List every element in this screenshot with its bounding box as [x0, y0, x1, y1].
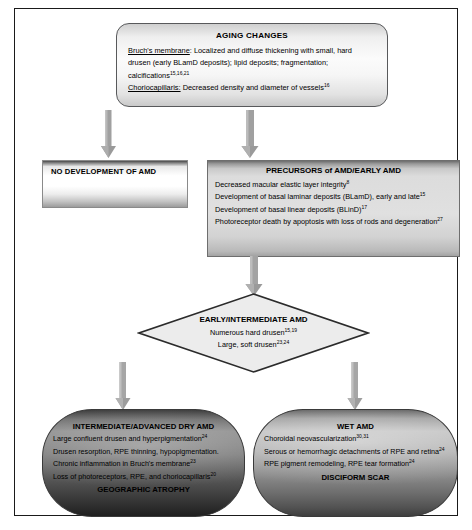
precursors-item: Photoreceptor death by apoptosis with lo…	[215, 216, 452, 229]
dry-amd-item: Loss of photoreceptors, RPE, and chorioc…	[53, 471, 234, 483]
wet-amd-title: WET AMD	[264, 421, 447, 433]
precursors-item-text: Decreased macular elastic layer integrit…	[215, 180, 346, 189]
aging-changes-box: AGING CHANGES Bruch's membrane: Localize…	[116, 23, 388, 107]
arrow-aging-to-nodevelopment	[98, 110, 120, 160]
wet-amd-item-ref: 24	[439, 445, 445, 451]
dry-amd-title: INTERMEDIATE/ADVANCED DRY AMD	[53, 421, 234, 433]
bruchs-membrane-label: Bruch's membrane	[128, 46, 190, 55]
precursors-item-ref: 15	[420, 191, 426, 197]
choriocapillaris-label: Choriocapillaris:	[128, 83, 181, 92]
precursors-title: PRECURSORS of AMD/EARLY AMD	[215, 165, 452, 178]
early-intermediate-amd-text: EARLY/INTERMEDIATE AMD Numerous hard dru…	[137, 314, 370, 351]
early-intermediate-amd-item: Large, soft drusen23,24	[137, 339, 370, 351]
page-frame: AGING CHANGES Bruch's membrane: Localize…	[14, 8, 458, 516]
wet-amd-item-ref: 24	[409, 458, 415, 464]
dry-amd-item: Large confluent drusen and hyperpigmenta…	[53, 433, 234, 445]
precursors-item-ref: 27	[437, 216, 443, 222]
wet-amd-cylinder: WET AMD Choroidal neovascularization30,3…	[253, 409, 458, 517]
wet-amd-item-text: Serous or hemorrhagic detachments of RPE…	[264, 447, 439, 456]
aging-changes-line-1: Bruch's membrane: Localized and diffuse …	[128, 45, 376, 83]
dry-amd-item-ref: 20	[210, 470, 216, 476]
early-intermediate-amd-title: EARLY/INTERMEDIATE AMD	[137, 314, 370, 326]
choriocapillaris-text: Decreased density and diameter of vessel…	[181, 83, 324, 92]
wet-amd-item: Serous or hemorrhagic detachments of RPE…	[264, 446, 447, 458]
early-intermediate-amd-item-text: Large, soft drusen	[218, 340, 277, 349]
precursors-item: Decreased macular elastic layer integrit…	[215, 179, 452, 192]
wet-amd-item-text: RPE pigment remodeling, RPE tear formati…	[264, 459, 409, 468]
no-development-box: NO DEVELOPMENT OF AMD	[42, 160, 188, 208]
precursors-item-text: Photoreceptor death by apoptosis with lo…	[215, 217, 437, 226]
dry-amd-item-ref: 24	[202, 433, 208, 439]
diagram-page: AGING CHANGES Bruch's membrane: Localize…	[0, 0, 472, 530]
choriocapillaris-ref: 16	[324, 82, 330, 88]
dry-amd-item-text: Drusen resorption, RPE thinning, hypopig…	[53, 447, 219, 456]
dry-amd-item-text: Large confluent drusen and hyperpigmenta…	[53, 434, 202, 443]
aging-changes-line-2: Choriocapillaris: Decreased density and …	[128, 82, 376, 95]
precursors-item: Development of basal laminar deposits (B…	[215, 191, 452, 204]
precursors-item: Development of basal linear deposits (BL…	[215, 204, 452, 217]
arrow-to-wet-amd	[345, 362, 365, 412]
dry-amd-item: Drusen resorption, RPE thinning, hypopig…	[53, 446, 234, 458]
wet-amd-item-text: Choroidal neovascularization	[264, 434, 356, 443]
early-intermediate-amd-item-text: Numerous hard drusen	[210, 328, 285, 337]
bruchs-membrane-ref: 15,16,21	[170, 69, 189, 75]
early-intermediate-amd-item-ref: 23,24	[277, 339, 290, 345]
precursors-item-ref: 8	[346, 178, 349, 184]
early-intermediate-amd-item-ref: 15,19	[285, 327, 298, 333]
dry-amd-outcome: GEOGRAPHIC ATROPHY	[53, 484, 234, 496]
precursors-item-text: Development of basal linear deposits (BL…	[215, 205, 361, 214]
precursors-item-ref: 17	[361, 203, 367, 209]
arrow-to-dry-amd	[113, 362, 133, 412]
wet-amd-outcome: DISCIFORM SCAR	[264, 472, 447, 484]
dry-amd-item-text: Loss of photoreceptors, RPE, and chorioc…	[53, 472, 210, 481]
dry-amd-item-text: Chronic inflammation in Bruch's membrane	[53, 459, 190, 468]
wet-amd-item: Choroidal neovascularization30,31	[264, 433, 447, 445]
early-intermediate-amd-diamond: EARLY/INTERMEDIATE AMD Numerous hard dru…	[137, 292, 370, 374]
dry-amd-item: Chronic inflammation in Bruch's membrane…	[53, 458, 234, 470]
no-development-title: NO DEVELOPMENT OF AMD	[51, 167, 179, 176]
dry-amd-item-ref: 23	[190, 458, 196, 464]
early-intermediate-amd-item: Numerous hard drusen15,19	[137, 327, 370, 339]
aging-changes-title: AGING CHANGES	[128, 30, 376, 43]
dry-amd-cylinder: INTERMEDIATE/ADVANCED DRY AMD Large conf…	[42, 409, 245, 517]
arrow-aging-to-precursors	[239, 110, 261, 160]
wet-amd-item-ref: 30,31	[356, 433, 369, 439]
precursors-item-text: Development of basal laminar deposits (B…	[215, 192, 420, 201]
precursors-box: PRECURSORS of AMD/EARLY AMD Decreased ma…	[207, 160, 460, 257]
wet-amd-item: RPE pigment remodeling, RPE tear formati…	[264, 458, 447, 470]
